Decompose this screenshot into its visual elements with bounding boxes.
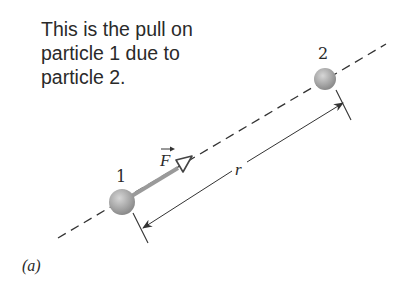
distance-label: r [235,160,242,179]
particle-1 [109,189,135,215]
distance-tick-1 [133,213,148,243]
panel-label: (a) [22,257,41,275]
force-arrow-shaft [130,168,178,197]
particle-2-label: 2 [318,44,328,63]
center-line [58,44,386,238]
distance-arrow-right [247,103,343,162]
force-diagram: r 1 2 F (a) [0,0,399,286]
force-label: F [159,151,171,170]
particle-1-label: 1 [116,167,126,186]
particle-2 [314,68,336,90]
distance-tick-2 [336,90,351,120]
